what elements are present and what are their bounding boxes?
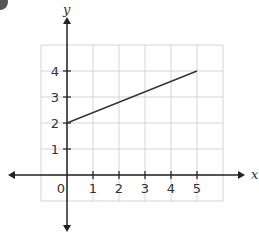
x-tick-label: 2 (115, 181, 123, 196)
x-tick-label: 1 (89, 181, 97, 196)
x-tick-label: 0 (57, 181, 65, 196)
x-axis-left-arrow-icon (8, 171, 15, 179)
y-tick-label: 2 (51, 116, 59, 131)
axes (8, 17, 245, 232)
y-axis-up-arrow-icon (63, 17, 71, 24)
problem-number-badge (0, 0, 8, 10)
y-tick-label: 4 (51, 64, 59, 79)
y-tick-label: 1 (51, 142, 59, 157)
y-axis-label: y (62, 2, 71, 17)
x-tick-label: 3 (141, 181, 149, 196)
y-axis-down-arrow-icon (63, 225, 71, 232)
x-tick-label: 5 (193, 181, 201, 196)
coordinate-plane: 0123451234 x y (0, 0, 259, 233)
y-tick-label: 3 (51, 90, 59, 105)
x-tick-label: 4 (167, 181, 175, 196)
x-axis-right-arrow-icon (238, 171, 245, 179)
x-axis-label: x (251, 167, 259, 182)
ticks: 0123451234 (51, 64, 201, 196)
